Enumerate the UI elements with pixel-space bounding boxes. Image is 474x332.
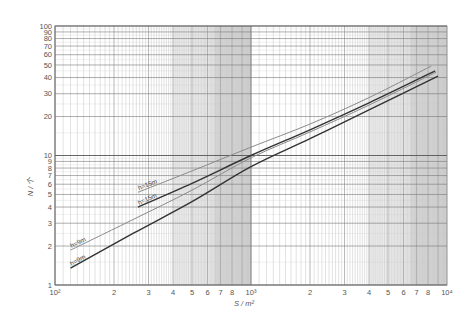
x-axis-ticks: 10²234567810³234567810⁴ — [50, 288, 453, 297]
y-axis-ticks: 123456789102030405060708090100 — [39, 22, 52, 290]
x-tick-label: 10⁴ — [441, 288, 453, 297]
y-tick-label: 10 — [44, 151, 52, 160]
y-axis-label: N / 个 — [26, 176, 35, 197]
x-tick-label: 7 — [415, 288, 419, 297]
x-axis-label: S / m² — [234, 299, 255, 308]
y-tick-label: 30 — [44, 89, 52, 98]
x-tick-label: 4 — [171, 288, 175, 297]
log-log-chart: h=15mh=15mh=9mh=9m 10²234567810³23456781… — [0, 0, 474, 332]
y-tick-label: 1 — [48, 281, 52, 290]
y-tick-label: 60 — [44, 50, 52, 59]
x-tick-label: 4 — [367, 288, 371, 297]
x-tick-label: 3 — [342, 288, 346, 297]
y-tick-label: 2 — [48, 242, 52, 251]
y-tick-label: 40 — [44, 73, 52, 82]
y-tick-label: 4 — [48, 203, 52, 212]
x-tick-label: 5 — [386, 288, 390, 297]
y-tick-label: 100 — [39, 22, 52, 31]
x-tick-label: 2 — [112, 288, 116, 297]
x-tick-label: 6 — [205, 288, 209, 297]
y-tick-label: 5 — [48, 190, 52, 199]
x-tick-label: 7 — [219, 288, 223, 297]
x-tick-label: 5 — [190, 288, 194, 297]
y-tick-label: 3 — [48, 219, 52, 228]
x-tick-label: 3 — [146, 288, 150, 297]
y-tick-label: 20 — [44, 112, 52, 121]
x-tick-label: 6 — [401, 288, 405, 297]
curve-labels: h=15mh=15mh=9mh=9m — [69, 177, 158, 267]
x-tick-label: 10³ — [246, 288, 257, 297]
x-tick-label: 8 — [426, 288, 430, 297]
x-tick-label: 8 — [230, 288, 234, 297]
y-tick-label: 6 — [48, 180, 52, 189]
y-tick-label: 50 — [44, 61, 52, 70]
x-tick-label: 2 — [308, 288, 312, 297]
